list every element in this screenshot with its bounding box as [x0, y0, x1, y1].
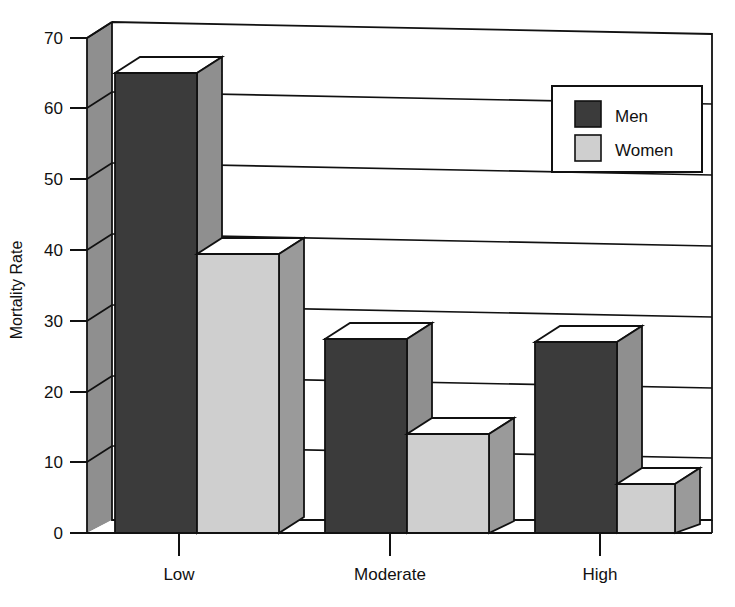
ytick-label-70: 70	[44, 29, 63, 48]
legend-swatch-men	[575, 101, 601, 127]
bar-moderate-women[interactable]	[407, 418, 514, 533]
x-axis-ticks: Low Moderate High	[163, 533, 617, 584]
legend-swatch-women	[575, 135, 601, 161]
y-axis-title: Mortality Rate	[8, 241, 25, 340]
left-wall	[87, 22, 112, 533]
ytick-label-40: 40	[44, 241, 63, 260]
ytick-label-50: 50	[44, 170, 63, 189]
bar-moderate-women-front	[407, 434, 489, 533]
bar-low-men-front	[115, 73, 197, 533]
y-axis-ticks: 70 60 50 40 30 20 10 0	[44, 29, 87, 543]
legend-label-men: Men	[615, 107, 648, 126]
bar-high-men-front	[535, 342, 617, 533]
xtick-label-moderate: Moderate	[354, 565, 426, 584]
bar-high-women-front	[617, 484, 675, 533]
legend-label-women: Women	[615, 141, 673, 160]
xtick-label-high: High	[583, 565, 618, 584]
ytick-label-10: 10	[44, 453, 63, 472]
ytick-label-0: 0	[54, 524, 63, 543]
bar-low-women-front	[197, 254, 279, 533]
ytick-label-30: 30	[44, 312, 63, 331]
bar-moderate-women-side	[489, 418, 514, 533]
chart-canvas: 70 60 50 40 30 20 10 0 Mortality Rate	[0, 0, 735, 607]
mortality-rate-bar-chart: 70 60 50 40 30 20 10 0 Mortality Rate	[0, 0, 735, 607]
xtick-label-low: Low	[163, 565, 195, 584]
bar-high-women[interactable]	[617, 468, 700, 533]
legend[interactable]: Men Women	[552, 86, 702, 172]
ytick-label-60: 60	[44, 99, 63, 118]
bar-moderate-men-front	[325, 339, 407, 533]
bar-low-women[interactable]	[197, 238, 304, 533]
bar-low-women-side	[279, 238, 304, 533]
ytick-label-20: 20	[44, 383, 63, 402]
